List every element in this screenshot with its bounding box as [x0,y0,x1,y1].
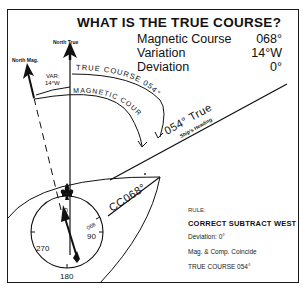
variation-arc [36,87,70,95]
compass-068-label: 068 [86,221,97,231]
rule-heading: RULE: [188,207,206,213]
rule-main: CORRECT SUBTRACT WEST [188,219,296,228]
rule-deviation: Deviation: 0° [188,233,225,240]
north-mag-label: North Mag. [12,57,38,63]
compass-west-label: 270 [36,244,50,253]
ships-heading-line [110,84,287,180]
given-value-magnetic-course: 068° [222,32,282,46]
compass-course-label: CC068° [107,181,148,214]
given-value-variation: 14°W [222,46,282,60]
compass-north-label: 0 [64,207,68,214]
given-label-magnetic-course: Magnetic Course [137,32,232,46]
compass-east-label: 90 [87,232,96,241]
variation-label-line1: VAR: [46,73,60,79]
rule-coincide: Mag. & Comp. Coincide [188,248,257,255]
given-label-deviation: Deviation [137,60,189,74]
compass-south-label: 180 [60,272,74,281]
given-label-variation: Variation [137,46,185,60]
page-title: WHAT IS THE TRUE COURSE? [77,15,281,30]
rule-true-course: TRUE COURSE 054° [188,263,251,270]
given-value-deviation: 0° [222,60,282,74]
fleur-de-lis-icon [61,183,74,200]
north-true-label: North True [53,39,78,45]
variation-label-line2: 14°W [45,80,60,86]
